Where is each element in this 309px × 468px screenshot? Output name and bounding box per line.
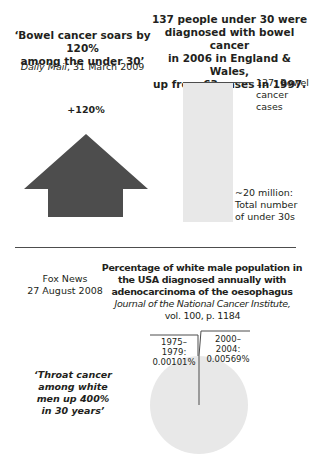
value: 0.00569%	[203, 354, 253, 364]
label-late-period: 2000–2004: 0.00569%	[203, 334, 253, 364]
period: 2000–2004:	[203, 334, 253, 354]
label-early-period: 1975–1979: 0.00101%	[150, 337, 198, 367]
period: 1975–1979:	[150, 337, 198, 357]
pie-chart	[0, 0, 309, 468]
value: 0.00101%	[150, 357, 198, 367]
